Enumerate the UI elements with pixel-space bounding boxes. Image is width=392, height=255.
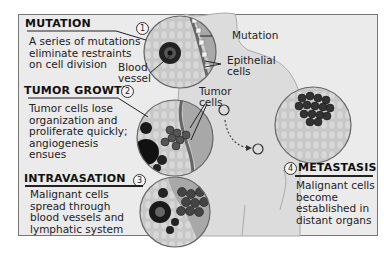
- mutation-label: Mutation: [232, 30, 278, 41]
- stage-3-description: Malignant cells spread through blood ves…: [30, 189, 124, 235]
- tumor-cells-label: Tumor cells: [199, 86, 231, 108]
- stage-4-description: Malignant cells become established in di…: [296, 180, 375, 226]
- epithelial-cells-label: Epithelial cells: [227, 55, 276, 77]
- stage-2-description: Tumor cells lose organization and prolif…: [29, 103, 128, 161]
- stage-1-number: 1: [136, 22, 149, 35]
- stage-3-title: INTRAVASATION: [24, 172, 126, 185]
- stage-4-rule: [295, 175, 373, 177]
- stage-1-title: MUTATION: [25, 17, 91, 30]
- stage-3-rule: [25, 185, 143, 187]
- blood-vessel-label: Blood vessel: [118, 62, 151, 84]
- stage-4-number: 4: [284, 162, 297, 175]
- stage-2-title: TUMOR GROWTH: [24, 84, 131, 97]
- stage-4-title: METASTASIS: [298, 161, 377, 174]
- stage-2-number: 2: [121, 85, 134, 98]
